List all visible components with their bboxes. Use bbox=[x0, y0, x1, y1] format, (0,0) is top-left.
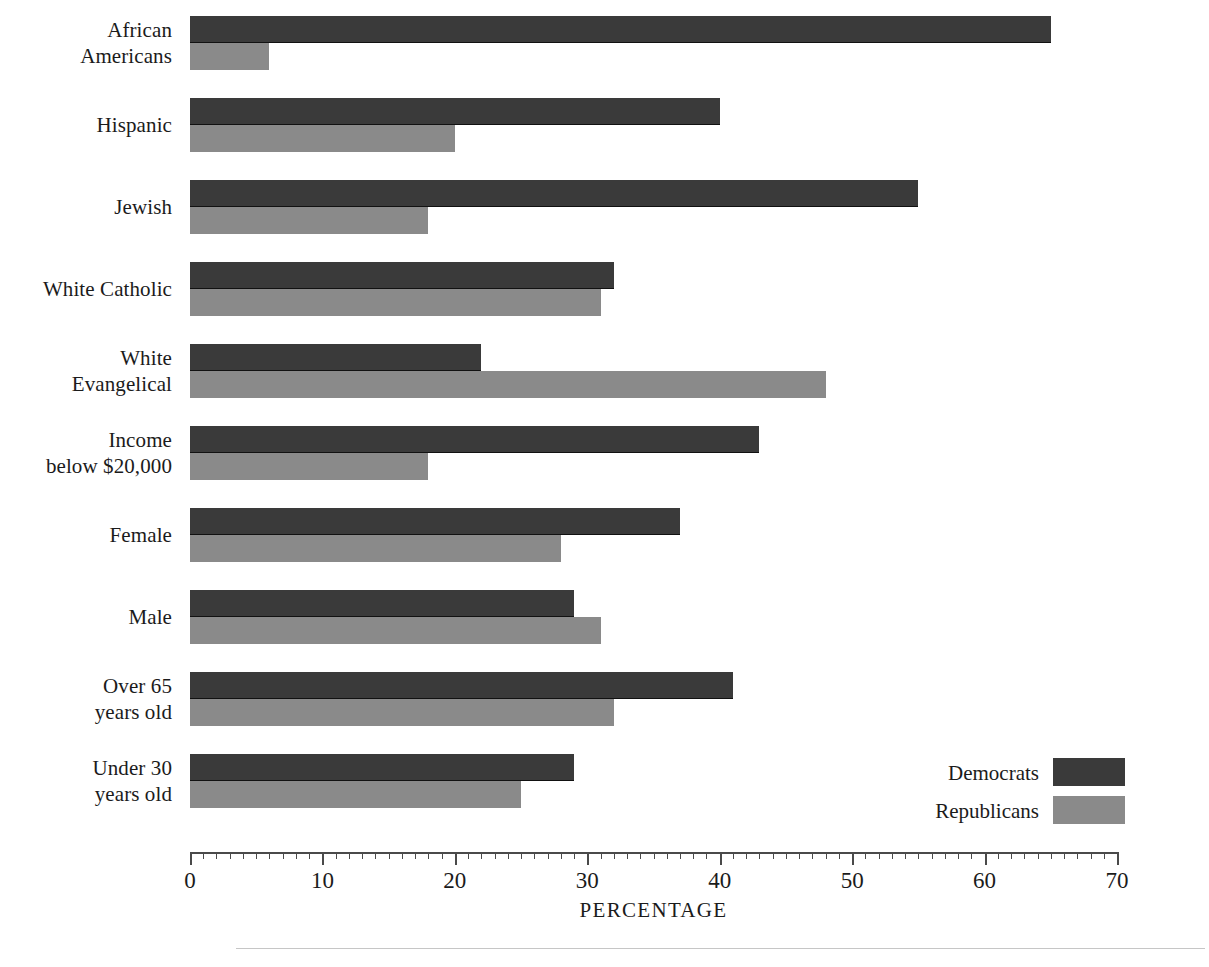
legend-label: Democrats bbox=[948, 759, 1039, 787]
bar-democrats bbox=[190, 590, 574, 617]
x-axis-minor-tick bbox=[309, 852, 310, 859]
category-label: Under 30years old bbox=[2, 755, 172, 807]
bar-republicans bbox=[190, 535, 561, 562]
x-axis-minor-tick bbox=[269, 852, 270, 859]
x-axis-minor-tick bbox=[706, 852, 707, 859]
x-axis-minor-tick bbox=[548, 852, 549, 859]
bar-group bbox=[190, 180, 1117, 234]
x-axis-minor-tick bbox=[442, 852, 443, 859]
legend-swatch bbox=[1053, 796, 1125, 824]
category-label-line: below $20,000 bbox=[2, 453, 172, 479]
bar-group bbox=[190, 16, 1117, 70]
category-label-line: Jewish bbox=[2, 194, 172, 220]
category-label-line: Female bbox=[2, 522, 172, 548]
x-axis-tick-label: 0 bbox=[184, 868, 196, 894]
x-axis-minor-tick bbox=[865, 852, 866, 859]
x-axis-minor-tick bbox=[1077, 852, 1078, 859]
category-label-line: Over 65 bbox=[2, 673, 172, 699]
x-axis-minor-tick bbox=[998, 852, 999, 859]
category-label-line: years old bbox=[2, 781, 172, 807]
bar-democrats bbox=[190, 180, 918, 207]
bar-republicans bbox=[190, 699, 614, 726]
category-label: Over 65years old bbox=[2, 673, 172, 725]
x-axis-minor-tick bbox=[402, 852, 403, 859]
x-axis-minor-tick bbox=[574, 852, 575, 859]
x-axis-minor-tick bbox=[495, 852, 496, 859]
x-axis-major-tick bbox=[985, 852, 987, 865]
bar-democrats bbox=[190, 672, 733, 699]
x-axis-minor-tick bbox=[1104, 852, 1105, 859]
bar-republicans bbox=[190, 453, 428, 480]
x-axis-minor-tick bbox=[349, 852, 350, 859]
x-axis-minor-tick bbox=[362, 852, 363, 859]
plot-area bbox=[190, 16, 1117, 844]
bar-group bbox=[190, 508, 1117, 562]
x-axis-minor-tick bbox=[693, 852, 694, 859]
legend-item: Democrats bbox=[905, 758, 1125, 791]
x-axis-minor-tick bbox=[389, 852, 390, 859]
legend-label: Republicans bbox=[935, 797, 1039, 825]
x-axis-minor-tick bbox=[1038, 852, 1039, 859]
category-label-line: White bbox=[2, 345, 172, 371]
bar-republicans bbox=[190, 371, 826, 398]
bar-republicans bbox=[190, 43, 269, 70]
x-axis-minor-tick bbox=[203, 852, 204, 859]
x-axis-minor-tick bbox=[481, 852, 482, 859]
x-axis-minor-tick bbox=[759, 852, 760, 859]
bar-democrats bbox=[190, 426, 759, 453]
bar-republicans bbox=[190, 781, 521, 808]
x-axis-major-tick bbox=[190, 852, 192, 865]
bar-group bbox=[190, 98, 1117, 152]
category-label-line: Under 30 bbox=[2, 755, 172, 781]
bar-republicans bbox=[190, 207, 428, 234]
x-axis-tick-label: 40 bbox=[708, 868, 731, 894]
x-axis-minor-tick bbox=[892, 852, 893, 859]
category-label: Male bbox=[2, 604, 172, 630]
x-axis-minor-tick bbox=[375, 852, 376, 859]
x-axis-minor-tick bbox=[667, 852, 668, 859]
x-axis-minor-tick bbox=[680, 852, 681, 859]
bar-democrats bbox=[190, 508, 680, 535]
bar-chart: AfricanAmericansHispanicJewishWhite Cath… bbox=[0, 0, 1209, 967]
x-axis-minor-tick bbox=[521, 852, 522, 859]
category-label-line: Income bbox=[2, 427, 172, 453]
x-axis-minor-tick bbox=[971, 852, 972, 859]
x-axis-minor-tick bbox=[839, 852, 840, 859]
x-axis-minor-tick bbox=[786, 852, 787, 859]
x-axis-minor-tick bbox=[296, 852, 297, 859]
category-label: WhiteEvangelical bbox=[2, 345, 172, 397]
x-axis-minor-tick bbox=[428, 852, 429, 859]
x-axis-minor-tick bbox=[216, 852, 217, 859]
x-axis-minor-tick bbox=[918, 852, 919, 859]
bar-republicans bbox=[190, 617, 601, 644]
x-axis-minor-tick bbox=[468, 852, 469, 859]
bar-group bbox=[190, 672, 1117, 726]
category-label-line: African bbox=[2, 17, 172, 43]
x-axis-minor-tick bbox=[654, 852, 655, 859]
x-axis-minor-tick bbox=[243, 852, 244, 859]
x-axis-major-tick bbox=[455, 852, 457, 865]
x-axis-minor-tick bbox=[879, 852, 880, 859]
category-label-line: years old bbox=[2, 699, 172, 725]
x-axis-minor-tick bbox=[773, 852, 774, 859]
x-axis-minor-tick bbox=[1064, 852, 1065, 859]
x-axis-minor-tick bbox=[627, 852, 628, 859]
x-axis-major-tick bbox=[322, 852, 324, 865]
category-label-line: Hispanic bbox=[2, 112, 172, 138]
x-axis-major-tick bbox=[1117, 852, 1119, 865]
x-axis-tick-label: 70 bbox=[1106, 868, 1129, 894]
x-axis-major-tick bbox=[587, 852, 589, 865]
x-axis-minor-tick bbox=[601, 852, 602, 859]
bar-republicans bbox=[190, 289, 601, 316]
x-axis-minor-tick bbox=[799, 852, 800, 859]
x-axis-minor-tick bbox=[256, 852, 257, 859]
x-axis-tick-label: 20 bbox=[443, 868, 466, 894]
x-axis-major-tick bbox=[852, 852, 854, 865]
category-axis-labels: AfricanAmericansHispanicJewishWhite Cath… bbox=[0, 16, 172, 844]
x-axis-minor-tick bbox=[1051, 852, 1052, 859]
bar-democrats bbox=[190, 754, 574, 781]
x-axis-minor-tick bbox=[614, 852, 615, 859]
x-axis-minor-tick bbox=[905, 852, 906, 859]
category-label-line: White Catholic bbox=[2, 276, 172, 302]
x-axis-major-tick bbox=[720, 852, 722, 865]
